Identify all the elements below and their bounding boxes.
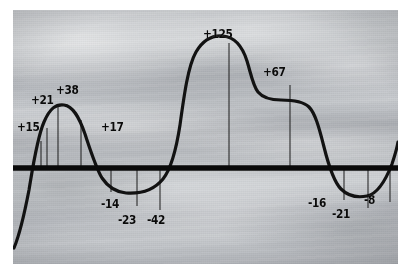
value-label-minus-14: -14 (101, 199, 119, 211)
value-label-minus-23: -23 (118, 215, 136, 227)
value-label-plus-17: +17 (101, 122, 123, 134)
value-label-plus-15: +15 (17, 122, 39, 134)
value-label-minus-16: -16 (308, 198, 326, 210)
value-label-plus-125: +125 (203, 29, 232, 41)
value-label-minus-21: -21 (332, 209, 350, 221)
value-label-plus-21: +21 (31, 95, 53, 107)
figure-panel: +15 +21 +38 +17 -14 -23 -42 +125 +67 -16… (13, 10, 398, 264)
value-label-minus-8: -8 (364, 195, 375, 207)
value-label-plus-67: +67 (263, 67, 285, 79)
value-label-minus-42: -42 (147, 215, 165, 227)
curve-plot (13, 10, 398, 264)
value-label-plus-38: +38 (56, 85, 78, 97)
